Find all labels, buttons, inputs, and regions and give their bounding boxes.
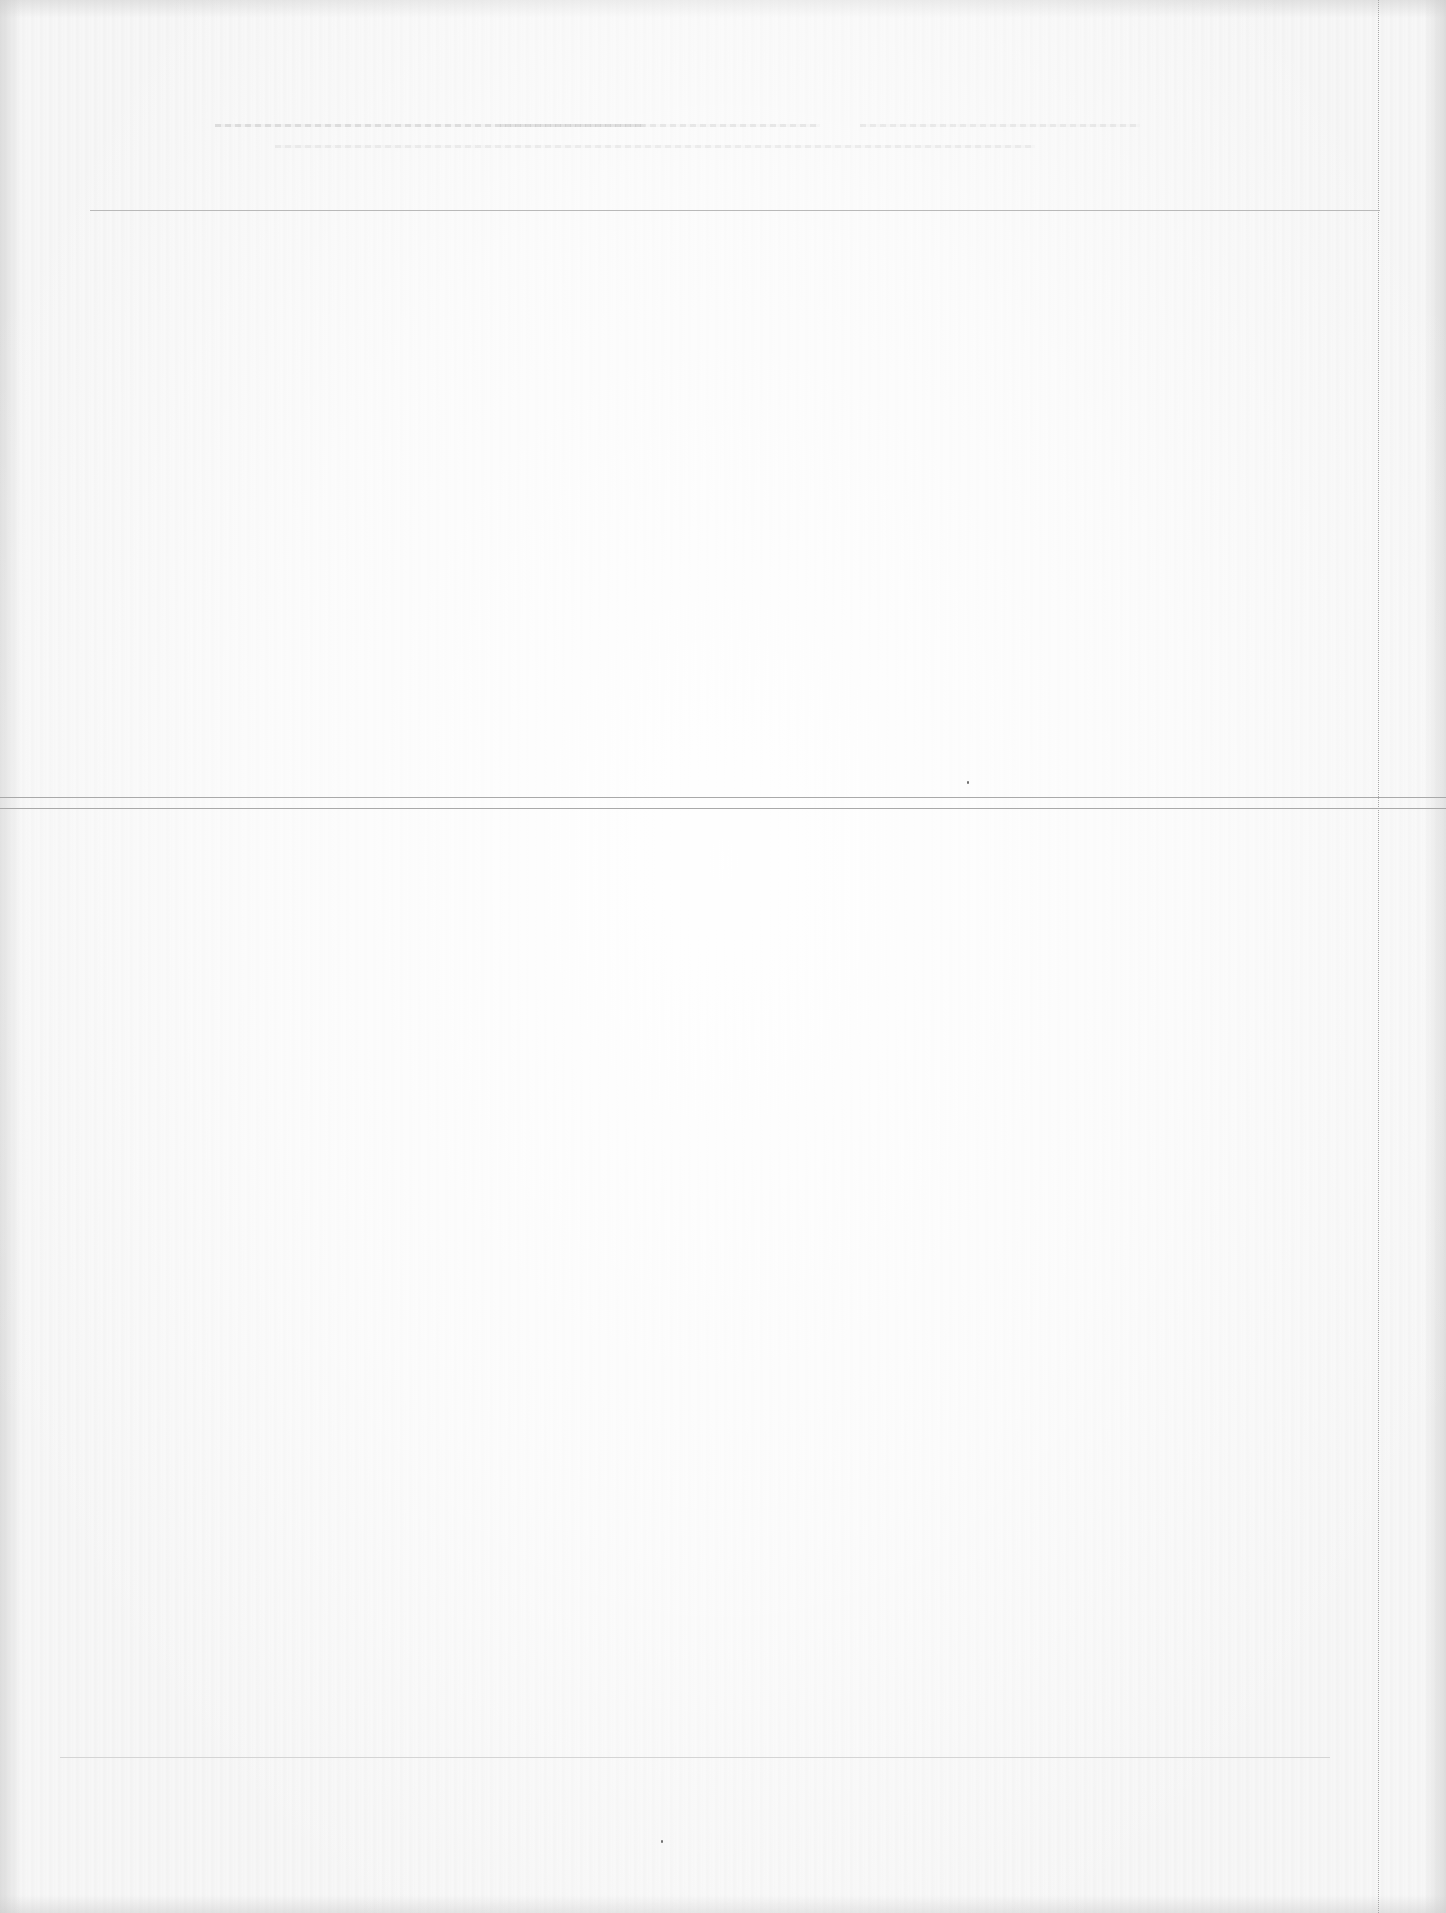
perforation-line xyxy=(1378,0,1379,1913)
scanned-page xyxy=(0,0,1446,1913)
header-rule xyxy=(90,210,1380,211)
upper-section xyxy=(0,212,1378,796)
lower-section xyxy=(0,810,1378,1755)
scan-speck xyxy=(967,781,969,784)
ghost-text-line xyxy=(500,124,820,127)
ghost-text-line xyxy=(275,145,1035,148)
divider-rule-bottom xyxy=(0,808,1446,809)
header-ghost-text xyxy=(0,0,1446,200)
divider-rule-top xyxy=(0,797,1446,798)
footer-rule xyxy=(60,1757,1330,1758)
scan-speck xyxy=(661,1840,663,1843)
ghost-text-line xyxy=(860,124,1140,127)
